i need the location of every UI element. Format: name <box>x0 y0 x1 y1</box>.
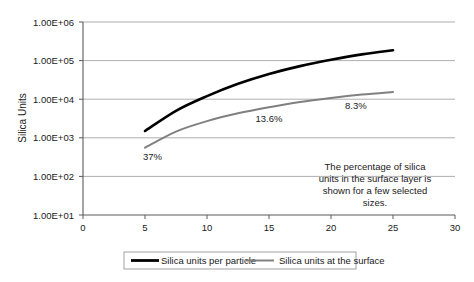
x-tick-label: 10 <box>202 222 213 233</box>
y-axis-ticks <box>79 22 83 215</box>
note-line: shown for a few selected <box>323 185 428 196</box>
x-tick-label: 15 <box>264 222 275 233</box>
y-axis-title: Silica Units <box>17 93 28 142</box>
y-tick-label: 1.00E+01 <box>33 210 74 221</box>
x-tick-label: 5 <box>142 222 147 233</box>
x-tick-label: 0 <box>80 222 85 233</box>
x-tick-label: 25 <box>388 222 399 233</box>
y-tick-label: 1.00E+05 <box>33 55 74 66</box>
y-tick-label: 1.00E+03 <box>33 132 74 143</box>
note-line: sizes. <box>363 197 387 208</box>
y-tick-label: 1.00E+06 <box>33 17 74 28</box>
y-tick-label: 1.00E+02 <box>33 171 74 182</box>
note-line: units in the surface layer is <box>319 173 432 184</box>
legend-label-silica-units-at-the-surface: Silica units at the surface <box>279 255 385 266</box>
annotation-37-percent: 37% <box>143 151 163 162</box>
annotation-13-6-percent: 13.6% <box>256 113 283 124</box>
x-tick-label: 20 <box>326 222 337 233</box>
x-tick-label: 30 <box>450 222 461 233</box>
legend-label-silica-units-per-particle: Silica units per particle <box>161 255 256 266</box>
chart-legend: Silica units per particle Silica units a… <box>124 252 385 269</box>
note-line: The percentage of silica <box>325 161 427 172</box>
silica-units-chart: 1.00E+06 1.00E+05 1.00E+04 1.00E+03 1.00… <box>0 0 474 282</box>
annotation-8-3-percent: 8.3% <box>345 100 367 111</box>
x-axis-ticks <box>83 215 455 219</box>
y-tick-label: 1.00E+04 <box>33 94 74 105</box>
chart-canvas: 1.00E+06 1.00E+05 1.00E+04 1.00E+03 1.00… <box>0 0 474 282</box>
